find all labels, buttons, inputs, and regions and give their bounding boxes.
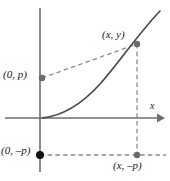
label-y-intercept-negative-p: (0, –p) [1,145,30,156]
exponential-curve [42,11,160,118]
point-marker-0-neg-p [36,151,44,159]
secant-dashed-line [42,44,137,78]
point-marker-x-neg-p [134,152,140,158]
label-reflected-point-x-negative-p: (x, –p) [113,160,142,171]
label-curve-point-xy: (x, y) [102,29,125,40]
label-y-intercept-p: (0, p) [3,69,27,80]
point-marker-x-y [134,41,140,47]
x-axis-label: x [150,101,154,111]
x-axis-arrowhead [157,114,165,123]
point-marker-0-p [39,75,45,81]
exponential-curve-figure: (0, p) (x, y) (0, –p) (x, –p) x [0,0,170,181]
